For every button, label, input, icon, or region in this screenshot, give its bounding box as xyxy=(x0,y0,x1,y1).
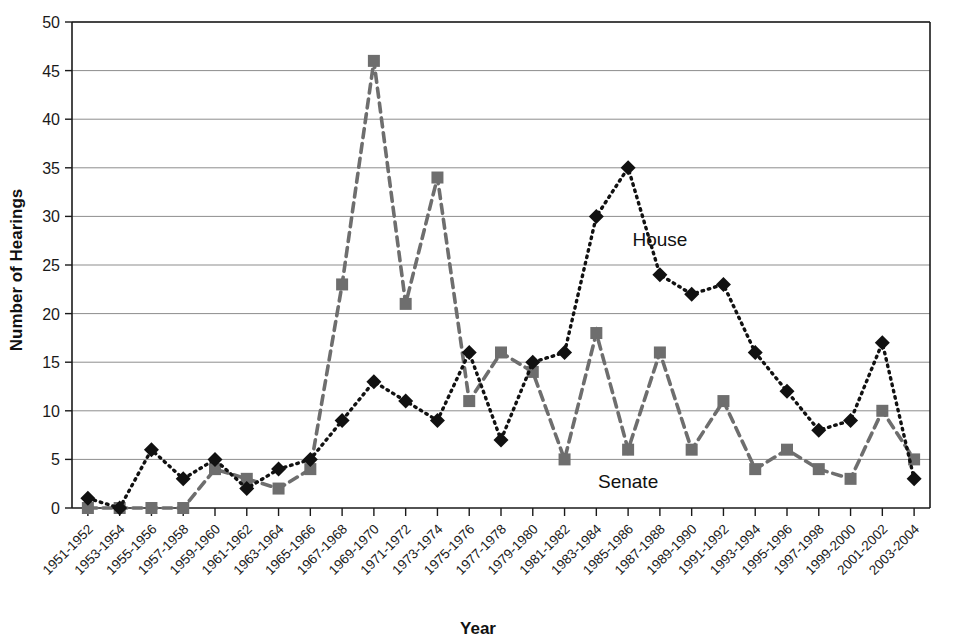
x-axis-tick-labels: 1951-19521953-19541955-19561957-19581959… xyxy=(40,521,923,578)
data-point-house xyxy=(716,277,731,292)
hearings-line-chart: 05101520253035404550 1951-19521953-19541… xyxy=(0,0,955,643)
series-label-senate: Senate xyxy=(598,471,658,492)
data-point-senate xyxy=(463,395,475,407)
data-point-senate xyxy=(273,483,285,495)
data-point-senate xyxy=(813,463,825,475)
y-tick-label: 5 xyxy=(51,451,60,468)
data-point-house xyxy=(652,267,667,282)
data-point-senate xyxy=(177,502,189,514)
y-tick-label: 10 xyxy=(42,403,60,420)
y-tick-label: 45 xyxy=(42,63,60,80)
y-tick-label: 20 xyxy=(42,306,60,323)
data-point-senate xyxy=(145,502,157,514)
data-point-house xyxy=(875,335,890,350)
data-point-house xyxy=(557,345,572,360)
data-point-senate xyxy=(717,395,729,407)
y-tick-label: 40 xyxy=(42,111,60,128)
y-axis-title: Number of Hearings xyxy=(7,189,26,351)
y-tick-label: 15 xyxy=(42,354,60,371)
series-annotations: HouseSenate xyxy=(598,229,687,492)
data-point-house xyxy=(907,471,922,486)
y-axis-tick-labels: 05101520253035404550 xyxy=(42,14,60,517)
data-point-senate xyxy=(368,55,380,67)
data-point-house xyxy=(430,413,445,428)
x-axis-title: Year xyxy=(460,619,496,638)
y-tick-label: 30 xyxy=(42,208,60,225)
series-house xyxy=(80,160,921,515)
data-point-house xyxy=(843,413,858,428)
series-label-house: House xyxy=(632,229,687,250)
y-tick-label: 35 xyxy=(42,160,60,177)
data-point-house xyxy=(684,287,699,302)
data-point-senate xyxy=(749,463,761,475)
data-point-senate xyxy=(431,172,443,184)
y-tick-label: 0 xyxy=(51,500,60,517)
data-point-senate xyxy=(622,444,634,456)
data-point-house xyxy=(398,394,413,409)
data-point-senate xyxy=(654,346,666,358)
data-point-house xyxy=(271,462,286,477)
data-point-senate xyxy=(336,278,348,290)
data-point-senate xyxy=(590,327,602,339)
y-tick-label: 25 xyxy=(42,257,60,274)
data-point-senate xyxy=(845,473,857,485)
y-tick-label: 50 xyxy=(42,14,60,31)
data-point-senate xyxy=(400,298,412,310)
data-point-senate xyxy=(686,444,698,456)
chart-container: 05101520253035404550 1951-19521953-19541… xyxy=(0,0,955,643)
data-point-senate xyxy=(495,346,507,358)
x-axis-ticks xyxy=(88,508,914,516)
grid-lines xyxy=(72,22,930,459)
data-point-house xyxy=(366,374,381,389)
y-axis-ticks xyxy=(65,22,72,508)
data-point-senate xyxy=(559,453,571,465)
data-point-house xyxy=(494,432,509,447)
data-point-senate xyxy=(876,405,888,417)
data-point-house xyxy=(589,209,604,224)
data-point-senate xyxy=(781,444,793,456)
